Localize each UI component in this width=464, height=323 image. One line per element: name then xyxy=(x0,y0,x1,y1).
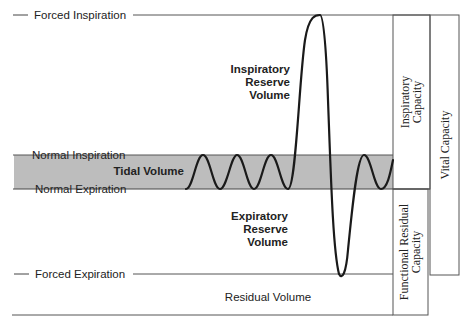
frc-label-line2: Capacity xyxy=(409,231,423,274)
vital-capacity-label: Vital Capacity xyxy=(438,111,452,180)
forced-inspiration-label: Forced Inspiration xyxy=(34,9,126,21)
irv-label-line2: Reserve xyxy=(245,76,290,88)
erv-label-line1: Expiratory xyxy=(231,210,288,222)
forced-expiration-label: Forced Expiration xyxy=(35,268,125,280)
irv-label-line1: Inspiratory xyxy=(231,63,291,75)
residual-volume-label: Residual Volume xyxy=(225,291,311,303)
spirometer-trace xyxy=(186,15,393,276)
inspiratory-capacity-label-line2: Capacity xyxy=(410,81,424,124)
normal-expiration-label: Normal Expiration xyxy=(35,183,126,195)
lung-volume-diagram: Forced Inspiration Normal Inspiration No… xyxy=(0,0,464,323)
tidal-volume-label: Tidal Volume xyxy=(113,165,184,177)
normal-inspiration-label: Normal Inspiration xyxy=(32,149,125,161)
erv-label-line3: Volume xyxy=(247,236,288,248)
erv-label-line2: Reserve xyxy=(243,223,288,235)
irv-label-line3: Volume xyxy=(249,89,290,101)
